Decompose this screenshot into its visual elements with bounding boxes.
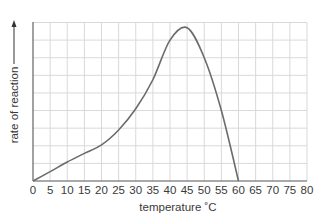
x-tick-label: 15 <box>78 184 91 196</box>
chart-grid <box>33 23 307 182</box>
x-tick-labels: 05101520253035404550556065707580 <box>30 184 314 196</box>
x-tick-label: 30 <box>129 184 142 196</box>
x-tick-label: 35 <box>146 184 159 196</box>
x-tick-label: 5 <box>47 184 53 196</box>
x-tick-label: 10 <box>61 184 74 196</box>
x-tick-label: 20 <box>95 184 108 196</box>
x-tick-label: 80 <box>301 184 314 196</box>
x-tick-label: 75 <box>283 184 296 196</box>
y-axis-label: rate of reaction <box>8 67 20 144</box>
x-tick-label: 60 <box>232 184 245 196</box>
x-tick-label: 70 <box>266 184 279 196</box>
x-tick-label: 65 <box>249 184 262 196</box>
x-tick-label: 50 <box>198 184 211 196</box>
x-tick-label: 25 <box>112 184 125 196</box>
x-tick-label: 0 <box>30 184 36 196</box>
x-tick-label: 55 <box>215 184 228 196</box>
arrowhead-icon <box>12 20 17 27</box>
x-axis-label: temperature ˚C <box>139 201 216 213</box>
x-tick-label: 40 <box>164 184 177 196</box>
x-tick-label: 45 <box>181 184 194 196</box>
line-chart: 05101520253035404550556065707580 rate of… <box>0 0 323 220</box>
y-axis-label-group: rate of reaction <box>8 20 20 143</box>
